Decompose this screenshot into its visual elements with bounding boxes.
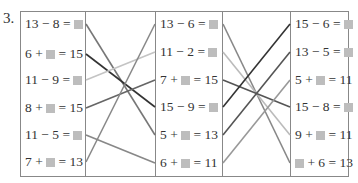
answer-box[interactable]: [46, 158, 55, 167]
expression-text: = 15: [190, 72, 218, 87]
answer-box[interactable]: [73, 76, 82, 85]
expression-text: = 11: [190, 155, 217, 170]
expression-middle-3: 15 − 9 =: [160, 99, 218, 115]
answer-box[interactable]: [344, 48, 353, 57]
answer-box[interactable]: [181, 159, 190, 168]
answer-box[interactable]: [344, 103, 353, 112]
expression-right-4: 9 + = 11: [295, 127, 353, 143]
expression-left-2: 11 − 9 =: [25, 72, 82, 88]
expression-middle-0: 13 − 6 =: [160, 16, 218, 32]
answer-box[interactable]: [181, 131, 190, 140]
answer-box[interactable]: [316, 131, 325, 140]
expression-left-1: 6 + = 15: [25, 46, 83, 62]
expression-text: 7 +: [160, 72, 181, 87]
expression-text: 6 +: [25, 46, 46, 61]
expression-text: 11 − 5 =: [25, 127, 73, 142]
expression-right-1: 13 − 5 =: [295, 44, 353, 60]
expression-right-5: + 6 = 13: [295, 155, 353, 171]
expression-text: 15 − 6 =: [295, 16, 344, 31]
expression-right-2: 5 + = 11: [295, 72, 353, 88]
expression-middle-5: 6 + = 11: [160, 155, 218, 171]
answer-box[interactable]: [46, 50, 55, 59]
expression-text: = 13: [55, 154, 83, 169]
expression-text: 15 − 9 =: [160, 99, 209, 114]
expression-text: + 6 = 13: [304, 155, 353, 170]
expression-middle-2: 7 + = 15: [160, 72, 218, 88]
expression-text: = 15: [55, 46, 83, 61]
answer-box[interactable]: [73, 131, 82, 140]
answer-box[interactable]: [74, 20, 83, 29]
expression-left-4: 11 − 5 =: [25, 127, 82, 143]
connection-line: [86, 54, 155, 107]
expression-text: 5 +: [160, 127, 181, 142]
expression-text: = 11: [325, 127, 352, 142]
expression-middle-4: 5 + = 13: [160, 127, 218, 143]
expression-text: 13 − 6 =: [160, 16, 209, 31]
answer-box[interactable]: [209, 103, 218, 112]
expression-text: 13 − 8 =: [25, 16, 74, 31]
expression-left-3: 8 + = 15: [25, 100, 83, 116]
answer-box[interactable]: [295, 159, 304, 168]
connection-line: [86, 52, 155, 80]
expression-middle-1: 11 − 2 =: [160, 44, 217, 60]
answer-box[interactable]: [46, 104, 55, 113]
answer-box[interactable]: [316, 76, 325, 85]
expression-text: 9 +: [295, 127, 316, 142]
expression-text: 5 +: [295, 72, 316, 87]
connection-line: [86, 24, 155, 162]
expression-text: = 13: [190, 127, 218, 142]
expression-text: 6 +: [160, 155, 181, 170]
answer-box[interactable]: [344, 20, 353, 29]
expression-text: 11 − 9 =: [25, 72, 73, 87]
answer-box[interactable]: [209, 20, 218, 29]
expression-text: 15 − 8 =: [295, 99, 344, 114]
expression-text: 11 − 2 =: [160, 44, 208, 59]
expression-text: = 15: [55, 100, 83, 115]
expression-right-0: 15 − 6 =: [295, 16, 353, 32]
expression-text: 8 +: [25, 100, 46, 115]
answer-box[interactable]: [181, 76, 190, 85]
expression-text: 7 +: [25, 154, 46, 169]
expression-text: 13 − 5 =: [295, 44, 344, 59]
expression-text: = 11: [325, 72, 352, 87]
answer-box[interactable]: [208, 48, 217, 57]
expression-right-3: 15 − 8 =: [295, 99, 353, 115]
expression-left-5: 7 + = 13: [25, 154, 83, 170]
connection-line: [86, 135, 155, 163]
expression-left-0: 13 − 8 =: [25, 16, 83, 32]
